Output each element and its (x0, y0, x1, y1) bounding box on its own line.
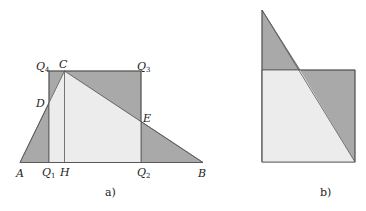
label-q2: Q2 (137, 166, 151, 180)
panel-a: Q4 C Q3 D E A Q1 H Q2 B a) (15, 58, 206, 199)
caption-b: b) (320, 186, 331, 199)
panel-b: b) (262, 10, 355, 199)
label-q4: Q4 (36, 60, 50, 74)
label-d: D (35, 97, 45, 110)
caption-a: a) (105, 186, 116, 199)
label-q3: Q3 (137, 60, 151, 74)
label-q1: Q1 (42, 166, 56, 180)
label-a: A (15, 167, 24, 180)
label-h: H (59, 166, 70, 179)
geometry-figure: Q4 C Q3 D E A Q1 H Q2 B a) b) (0, 0, 366, 211)
label-e: E (142, 112, 151, 125)
label-b: B (197, 167, 206, 180)
label-c: C (59, 58, 68, 71)
